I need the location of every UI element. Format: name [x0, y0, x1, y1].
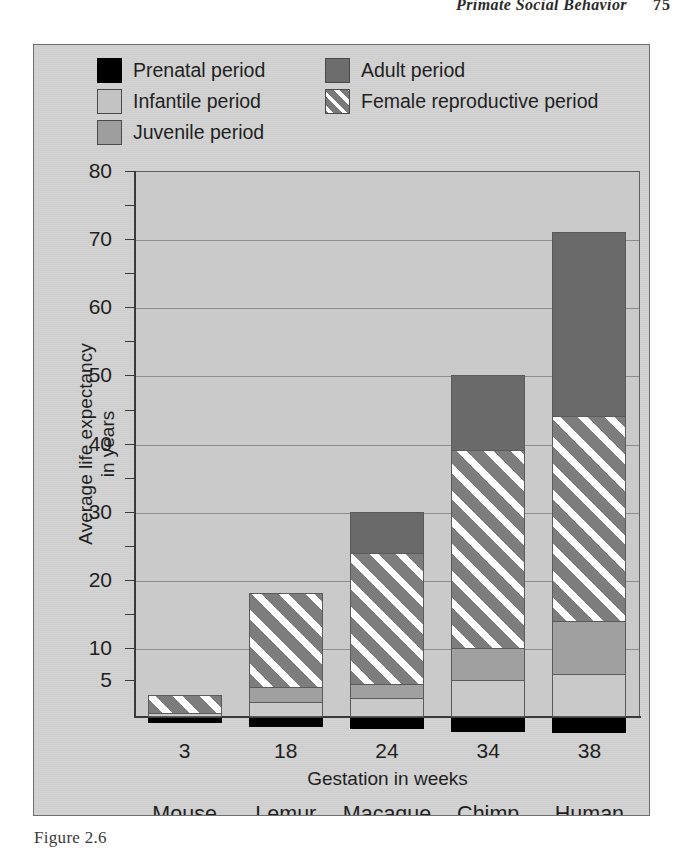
species-label-mouse: Mouse [152, 802, 217, 816]
y-tick-label-70: 70 [34, 227, 112, 251]
y-tick-30 [125, 512, 134, 513]
y-tick-45 [125, 410, 134, 411]
bar-human [552, 232, 626, 717]
species-label-lemur: Lemur [255, 802, 316, 816]
segment-juvenile-macaque [350, 684, 424, 699]
segment-infantile-mouse [148, 713, 222, 717]
segment-repro-human [552, 416, 626, 620]
y-tick-10 [125, 648, 134, 649]
segment-adult-human [552, 232, 626, 416]
dark-gray-swatch-icon [325, 58, 350, 83]
y-tick-65 [125, 273, 134, 274]
segment-adult-chimp [451, 375, 525, 450]
y-tick-80 [125, 171, 134, 172]
segment-prenatal-lemur [249, 718, 323, 727]
y-tick-70 [125, 239, 134, 240]
y-tick-label-40: 40 [34, 432, 112, 456]
species-label-macaque: Macaque [343, 802, 431, 816]
legend-item-prenatal: Prenatal period [97, 58, 325, 83]
y-tick-50 [125, 375, 134, 376]
figure-frame: Prenatal period Adult period Infantile p… [33, 44, 650, 816]
light-gray-swatch-icon [97, 89, 122, 114]
running-head-title: Primate Social Behavior [456, 0, 627, 13]
segment-juvenile-chimp [451, 648, 525, 680]
gestation-label-chimp: 34 [477, 739, 500, 763]
legend-label-infantile: Infantile period [133, 92, 261, 112]
y-tick-label-60: 60 [34, 295, 112, 319]
legend-item-adult: Adult period [325, 58, 617, 83]
black-swatch-icon [97, 58, 122, 83]
y-tick-25 [125, 546, 134, 547]
chart-legend: Prenatal period Adult period Infantile p… [97, 55, 617, 148]
gestation-label-lemur: 18 [274, 739, 297, 763]
running-head: Primate Social Behavior75 [0, 0, 697, 14]
segment-prenatal-macaque [350, 718, 424, 729]
legend-label-adult: Adult period [361, 61, 465, 81]
y-tick-label-10: 10 [34, 636, 112, 660]
segment-repro-chimp [451, 450, 525, 648]
y-tick-20 [125, 580, 134, 581]
y-axis-line [134, 171, 136, 718]
y-tick-label-30: 30 [34, 500, 112, 524]
legend-label-repro: Female reproductive period [361, 92, 598, 112]
x-axis-title: Gestation in weeks [134, 768, 641, 790]
gestation-label-human: 38 [578, 739, 601, 763]
y-tick-label-50: 50 [34, 363, 112, 387]
segment-juvenile-lemur [249, 687, 323, 702]
gestation-label-mouse: 3 [179, 739, 191, 763]
bar-macaque [350, 512, 424, 717]
segment-juvenile-human [552, 621, 626, 674]
species-label-human: Human [555, 802, 624, 816]
legend-item-infantile: Infantile period [97, 89, 325, 114]
species-label-chimp: Chimp [457, 802, 519, 816]
y-tick-40 [125, 444, 134, 445]
mid-gray-swatch-icon [97, 120, 122, 145]
legend-label-juvenile: Juvenile period [133, 123, 264, 143]
segment-repro-macaque [350, 553, 424, 684]
segment-prenatal-mouse [148, 718, 222, 723]
chart-plot-wrapper: Average life expectancyin years 80706050… [34, 45, 649, 815]
y-tick-label-20: 20 [34, 568, 112, 592]
segment-prenatal-chimp [451, 718, 525, 732]
bar-mouse [148, 695, 222, 717]
segment-prenatal-human [552, 718, 626, 733]
legend-item-repro: Female reproductive period [325, 89, 617, 114]
segment-infantile-chimp [451, 680, 525, 717]
segment-repro-lemur [249, 593, 323, 687]
y-tick-label-5: 5 [34, 668, 112, 692]
segment-infantile-lemur [249, 702, 323, 717]
y-tick-label-80: 80 [34, 159, 112, 183]
segment-repro-mouse [148, 695, 222, 714]
legend-item-juvenile: Juvenile period [97, 120, 325, 145]
y-tick-15 [125, 614, 134, 615]
y-tick-55 [125, 341, 134, 342]
y-tick-5 [125, 680, 134, 681]
bar-lemur [249, 593, 323, 717]
segment-adult-macaque [350, 512, 424, 553]
gestation-label-macaque: 24 [375, 739, 398, 763]
y-tick-60 [125, 307, 134, 308]
figure-caption: Figure 2.6 [34, 828, 107, 848]
segment-infantile-human [552, 674, 626, 717]
segment-infantile-macaque [350, 698, 424, 717]
y-tick-75 [125, 205, 134, 206]
page-number: 75 [653, 0, 671, 13]
y-tick-35 [125, 478, 134, 479]
hatched-swatch-icon [325, 89, 350, 114]
legend-label-prenatal: Prenatal period [133, 61, 265, 81]
bar-chimp [451, 375, 525, 717]
